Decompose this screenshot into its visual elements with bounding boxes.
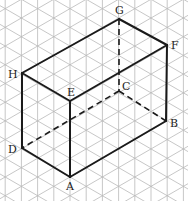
- vertex-label-a: A: [65, 180, 75, 193]
- vertex-label-e: E: [67, 86, 75, 99]
- vertex-label-g: G: [115, 4, 124, 17]
- grid-line: [0, 165, 188, 201]
- grid-line: [0, 0, 188, 2]
- isometric-cuboid-diagram: A B C D E F G H: [0, 0, 188, 201]
- grid-line: [0, 6, 188, 115]
- vertex-label-c: C: [122, 80, 130, 93]
- grid-line: [0, 184, 188, 201]
- grid-line: [0, 174, 188, 201]
- grid-line: [0, 109, 188, 201]
- grid-line: [0, 80, 188, 189]
- edge-fb: [166, 45, 167, 121]
- vertex-label-h: H: [8, 68, 18, 81]
- grid-line: [0, 43, 188, 152]
- vertex-label-d: D: [8, 143, 17, 156]
- edge-he: [22, 73, 70, 101]
- grid-line: [0, 0, 188, 77]
- grid-line: [0, 0, 188, 12]
- grid-line: [0, 62, 188, 171]
- grid-line: [0, 0, 188, 105]
- vertex-label-b: B: [170, 117, 178, 130]
- grid-line: [0, 146, 188, 201]
- grid-line: [0, 34, 188, 143]
- grid-line: [0, 118, 188, 201]
- grid-line: [0, 99, 188, 201]
- vertex-label-f: F: [171, 39, 179, 52]
- isometric-grid: [0, 0, 188, 201]
